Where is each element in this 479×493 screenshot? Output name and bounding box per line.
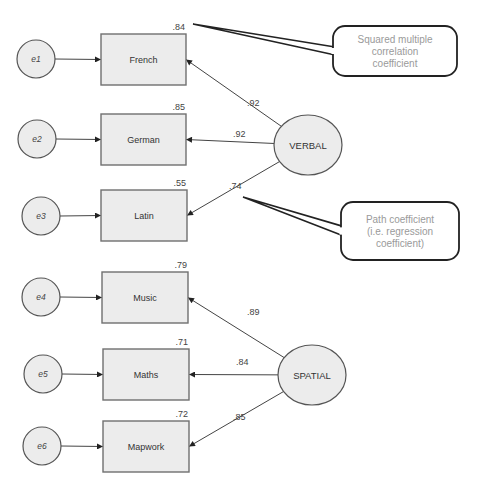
squared-multiple-correlation-label: .85: [172, 102, 185, 112]
variable-label: Latin: [134, 211, 154, 221]
loading-path-french: [186, 60, 281, 127]
observed-variable-german: German.85: [101, 102, 186, 165]
squared-multiple-correlation-label: .55: [173, 178, 186, 188]
error-path-e5: [62, 374, 103, 375]
error-term-e5: e5: [24, 355, 62, 393]
variable-label: Maths: [134, 370, 159, 380]
callout-pointer: [243, 197, 343, 236]
callout-text-line: correlation: [372, 46, 419, 57]
observed-variable-mapwork: Mapwork.72: [103, 409, 189, 472]
variable-label: Mapwork: [128, 442, 165, 452]
path-coefficient-label: .74: [229, 181, 242, 191]
loading-path-german: [186, 140, 274, 144]
loading-path-music: [188, 298, 284, 358]
observed-variable-music: Music.79: [102, 260, 188, 323]
diagram-nodes: e1French.84e2German.85e3Latin.55e4Music.…: [17, 22, 346, 472]
callout-text-line: Path coefficient: [366, 214, 434, 225]
path-coefficient-label: .89: [247, 307, 260, 317]
variable-label: German: [127, 135, 160, 145]
error-path-e2: [56, 139, 101, 140]
error-label: e5: [38, 369, 48, 379]
callout-text-line: (i.e. regression: [367, 226, 433, 237]
latent-label: SPATIAL: [293, 370, 331, 381]
error-term-e3: e3: [22, 197, 60, 235]
latent-label: VERBAL: [289, 140, 327, 151]
squared-multiple-correlation-label: .79: [174, 260, 187, 270]
path-coefficient-label: .92: [233, 129, 246, 139]
callout-text-line: coefficient: [373, 58, 418, 69]
error-term-e6: e6: [23, 427, 61, 465]
callout-text-line: coefficient): [376, 238, 424, 249]
squared-multiple-correlation-label: .71: [175, 337, 188, 347]
observed-variable-french: French.84: [101, 22, 186, 85]
sem-path-diagram: .92.92.74.89.84.85 e1French.84e2German.8…: [0, 0, 479, 493]
path-coefficient-label: .84: [236, 357, 249, 367]
path-coefficient-label: .85: [233, 412, 246, 422]
error-label: e6: [37, 441, 47, 451]
path-coefficient-label: .92: [247, 98, 260, 108]
squared-multiple-correlation-label: .84: [172, 22, 185, 32]
callout-text-line: Squared multiple: [357, 34, 432, 45]
observed-variable-latin: Latin.55: [101, 178, 187, 241]
latent-factor-spatial: SPATIAL: [278, 345, 346, 405]
error-path-e3: [60, 216, 101, 217]
squared-multiple-correlation-label: .72: [175, 409, 188, 419]
error-path-e6: [61, 446, 103, 447]
error-label: e3: [36, 211, 46, 221]
error-label: e4: [36, 292, 46, 302]
error-label: e2: [32, 134, 42, 144]
error-term-e2: e2: [18, 120, 56, 158]
error-term-e1: e1: [17, 40, 55, 78]
callout-pointer: [193, 24, 335, 55]
variable-label: Music: [133, 293, 157, 303]
callout-path-coefficient: Path coefficient(i.e. regressioncoeffici…: [243, 197, 459, 260]
callout-squared-multiple-correlation: Squared multiplecorrelationcoefficient: [193, 24, 457, 76]
error-path-e4: [60, 297, 102, 298]
error-label: e1: [31, 54, 41, 64]
error-path-e1: [55, 59, 101, 60]
observed-variable-maths: Maths.71: [103, 337, 189, 400]
error-term-e4: e4: [22, 278, 60, 316]
variable-label: French: [129, 55, 157, 65]
latent-factor-verbal: VERBAL: [274, 115, 342, 175]
